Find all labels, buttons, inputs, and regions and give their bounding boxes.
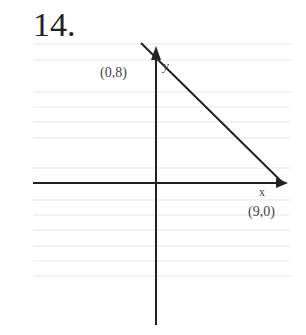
x-intercept-label: (9,0) xyxy=(248,204,275,220)
gridlines xyxy=(33,44,290,276)
x-axis-label: x xyxy=(259,185,265,199)
graph: y x (0,8) (9,0) xyxy=(0,0,306,335)
y-axis-label: y xyxy=(161,58,169,73)
y-intercept-label: (0,8) xyxy=(100,65,127,81)
